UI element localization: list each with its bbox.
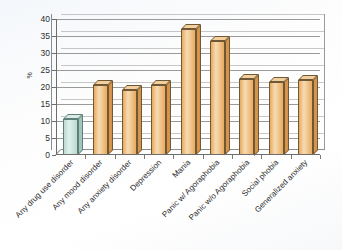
y-axis-back-line <box>51 14 52 150</box>
bar-side-face <box>196 24 201 155</box>
y-axis-tick-label: 35 <box>28 32 50 41</box>
y-axis-tick-label: 20 <box>28 83 50 92</box>
bar-chart: % 0510152025303540 Any drug use disorder… <box>0 0 342 250</box>
x-axis-category-label: Any anxiety disorder <box>76 158 134 216</box>
x-axis-category-label: Generalized anxiety <box>253 158 309 214</box>
y-axis-line <box>56 19 57 155</box>
y-axis-tick-label: 0 <box>28 151 50 160</box>
y-axis-tick-label: 25 <box>28 66 50 75</box>
x-axis-category-labels: Any drug use disorderAny mood disorderAn… <box>56 158 342 250</box>
y-axis-tick-label: 10 <box>28 117 50 126</box>
gridline-back <box>61 14 325 15</box>
x-axis-category-label: Mania <box>171 158 193 180</box>
y-axis-tick-label: 15 <box>28 100 50 109</box>
bar-front-face <box>210 41 225 155</box>
y-axis-tick-label: 40 <box>28 15 50 24</box>
y-axis-tick-label: 5 <box>28 134 50 143</box>
y-axis-tick-label: 30 <box>28 49 50 58</box>
x-axis-category-label: Any mood disorder <box>51 158 105 212</box>
bar-side-face <box>225 36 230 155</box>
bar <box>210 41 225 155</box>
